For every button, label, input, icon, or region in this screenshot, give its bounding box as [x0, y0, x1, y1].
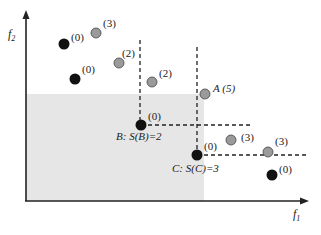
point-2: (0) [70, 63, 96, 85]
point-label: (2) [122, 47, 135, 60]
dominated-point-icon [91, 28, 101, 38]
point-label: (0) [204, 140, 217, 153]
point-label: (2) [159, 67, 172, 80]
point-8: (3) [226, 131, 254, 145]
diagram-canvas: f2 f1 (0) (3) (0) (2) (2) A (5) (0 [0, 0, 321, 235]
point-label: (0) [148, 110, 161, 123]
nondominated-point-icon [70, 74, 81, 85]
point-9: (3) [263, 135, 288, 157]
point-label: (3) [103, 17, 116, 30]
point-a: A (5) [200, 82, 235, 99]
point-label: (0) [279, 163, 292, 176]
dominated-point-icon [263, 147, 273, 157]
x-axis-label: f1 [293, 207, 300, 223]
point-4: (2) [147, 67, 172, 87]
shaded-region [26, 94, 204, 201]
dominated-point-icon [200, 89, 210, 99]
nondominated-point-icon [192, 150, 203, 161]
point-1: (3) [91, 17, 116, 38]
x-axis-arrow-icon [300, 198, 309, 205]
point-label: (0) [82, 63, 95, 76]
b-strength-annotation: B: S(B)=2 [116, 130, 162, 143]
y-axis-label: f2 [8, 27, 15, 43]
y-axis-arrow-icon [23, 10, 30, 19]
point-label: (3) [241, 131, 254, 144]
nondominated-point-icon [59, 39, 70, 50]
point-label: (3) [275, 135, 288, 148]
point-a-label: A (5) [212, 82, 235, 95]
nondominated-point-icon [267, 170, 278, 181]
pareto-strength-diagram: f2 f1 (0) (3) (0) (2) (2) A (5) (0 [0, 0, 321, 235]
dominated-point-icon [226, 135, 236, 145]
point-10: (0) [267, 163, 293, 181]
point-0: (0) [59, 31, 85, 50]
point-3: (2) [114, 47, 135, 68]
dominated-point-icon [147, 77, 157, 87]
nondominated-point-icon [136, 120, 147, 131]
dominated-point-icon [114, 58, 124, 68]
c-strength-annotation: C: S(C)=3 [172, 162, 219, 175]
point-label: (0) [71, 31, 84, 44]
